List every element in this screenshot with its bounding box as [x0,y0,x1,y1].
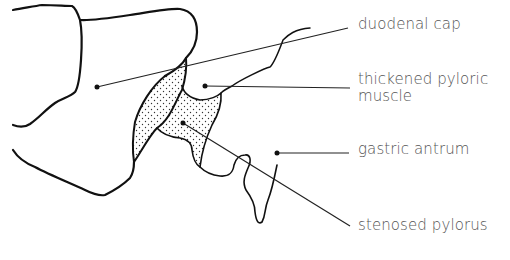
label-thickened-line1: thickened pyloric [358,71,488,88]
label-duodenal-cap: duodenal cap [358,16,461,33]
duodenal-cap-outline [13,5,197,76]
label-gastric-antrum: gastric antrum [358,141,470,158]
dot-duodenal-cap [95,85,100,90]
duodenal-cap-left-edge [13,20,82,127]
label-stenosed-pylorus: stenosed pylorus [358,217,488,234]
gastric-antrum-upper-outline [221,28,310,93]
duodenal-cap-bottom-edge [13,150,134,195]
label-thickened-pyloric-muscle: thickened pyloric muscle [358,71,488,105]
dot-stenosed-pylorus [181,121,186,126]
dot-thickened-pyloric-muscle [203,84,208,89]
leader-thickened-pyloric-muscle [205,86,350,88]
leader-duodenal-cap [97,28,348,87]
dot-gastric-antrum [275,151,280,156]
leader-stenosed-pylorus [183,123,350,226]
label-thickened-line2: muscle [358,88,488,105]
